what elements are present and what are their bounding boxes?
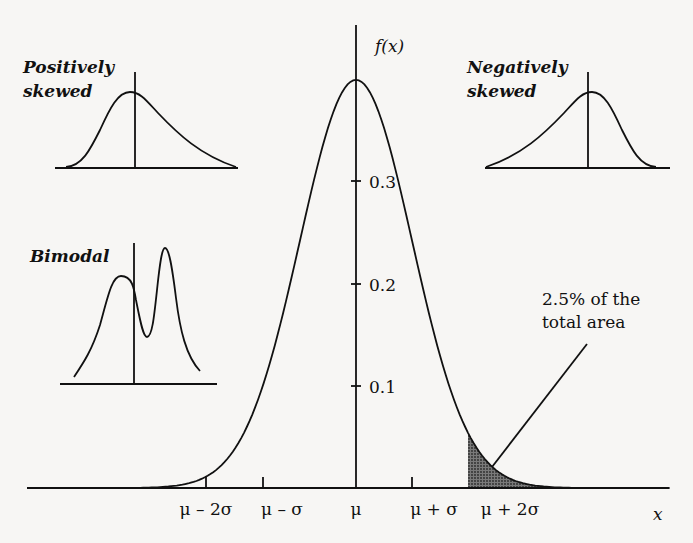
inset-pos-curve [66, 92, 236, 167]
x-tick-label-mu-minus-2sigma: μ – 2σ [180, 499, 233, 519]
inset-bimodal-label: Bimodal [29, 246, 110, 266]
inset-bimodal-curve [74, 248, 200, 377]
annotation-text-line2: total area [542, 312, 625, 332]
y-tick-label-0.1: 0.1 [369, 377, 396, 397]
normal-distribution-chart: f(x) 0.3 0.2 0.1 μ – 2σ μ – σ μ μ + σ μ … [0, 0, 693, 543]
inset-positively-skewed-label-1: Positively [22, 57, 115, 77]
inset-negatively-skewed-label-2: skewed [466, 81, 537, 101]
x-tick-label-mu: μ [350, 499, 361, 519]
inset-bimodal: Bimodal [29, 243, 217, 384]
x-tick-label-mu-plus-sigma: μ + σ [410, 499, 458, 519]
inset-negatively-skewed-label-1: Negatively [466, 57, 569, 77]
inset-positively-skewed-label-2: skewed [22, 81, 93, 101]
annotation-pointer-line [492, 344, 587, 467]
shaded-tail-area [468, 433, 670, 488]
inset-negatively-skewed: Negatively skewed [466, 57, 670, 168]
x-tick-label-mu-minus-sigma: μ – σ [261, 499, 303, 519]
annotation-text-line1: 2.5% of the [542, 289, 640, 309]
x-axis-label: x [653, 504, 663, 524]
inset-positively-skewed: Positively skewed [22, 57, 238, 168]
inset-neg-curve [486, 92, 656, 167]
y-tick-label-0.2: 0.2 [369, 275, 396, 295]
y-axis-label: f(x) [373, 36, 404, 56]
y-tick-label-0.3: 0.3 [369, 172, 396, 192]
x-tick-label-mu-plus-2sigma: μ + 2σ [481, 499, 540, 519]
